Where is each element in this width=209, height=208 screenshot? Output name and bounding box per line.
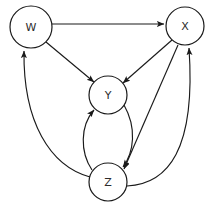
edge-z-to-y	[83, 110, 94, 170]
node-z[interactable]: Z	[89, 163, 127, 201]
node-w-label: W	[26, 21, 37, 34]
edge-y-to-z	[123, 105, 133, 167]
directed-graph-diagram: W X Y Z	[0, 0, 209, 208]
edge-x-to-z	[124, 45, 178, 169]
edge-w-to-y	[46, 42, 94, 82]
nodes-group: W X Y Z	[10, 6, 204, 201]
node-x-label: X	[181, 20, 189, 33]
graph-canvas: W X Y Z	[0, 0, 209, 208]
node-y-label: Y	[104, 89, 112, 102]
node-y[interactable]: Y	[89, 76, 127, 114]
node-z-label: Z	[104, 176, 112, 189]
node-w[interactable]: W	[10, 6, 52, 48]
edge-z-to-x	[127, 48, 190, 186]
node-x[interactable]: X	[166, 7, 204, 45]
